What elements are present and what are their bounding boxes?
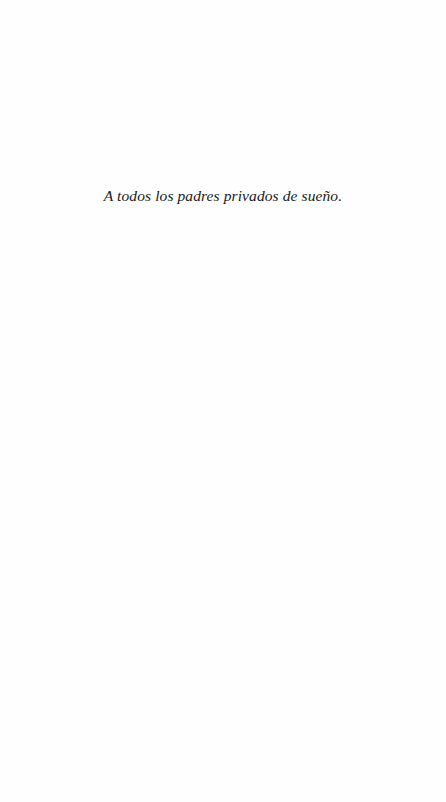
book-page: A todos los padres privados de sueño. bbox=[0, 0, 446, 802]
dedication-text: A todos los padres privados de sueño. bbox=[0, 186, 446, 206]
